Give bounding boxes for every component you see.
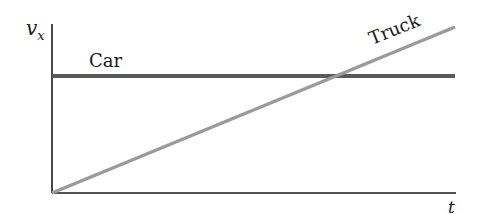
x-axis-label: t (448, 197, 455, 214)
velocity-time-graph: vx t Car Truck (0, 0, 481, 214)
y-axis-label: vx (26, 16, 45, 43)
car-label: Car (89, 50, 123, 71)
